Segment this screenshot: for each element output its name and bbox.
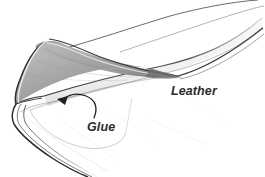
strip-interior-shading — [22, 104, 160, 172]
leather-fold-figure: Leather Glue — [0, 0, 265, 177]
label-glue: Glue — [87, 120, 115, 134]
strip-left-corner — [12, 98, 97, 177]
label-leather: Leather — [171, 84, 217, 98]
glue-arrow — [57, 94, 96, 118]
illustration-canvas — [0, 0, 265, 177]
